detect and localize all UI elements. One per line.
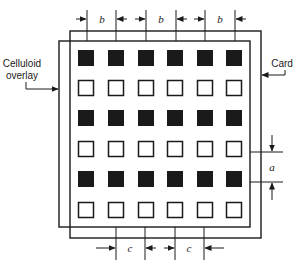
celluloid-overlay-leader-arrow: [26, 82, 58, 89]
dimension-c-bottom: [96, 227, 224, 260]
dimension-a-label: a: [269, 161, 275, 173]
dimension-c-label-2: c: [187, 242, 192, 254]
card-leader-arrow: [262, 70, 285, 75]
celluloid-overlay-diagram: b b b c c a Celluloid overlay Card: [0, 0, 304, 267]
grid-row-5: [78, 171, 242, 187]
grid-row-4: [79, 142, 242, 157]
dimension-b-label-2: b: [158, 13, 164, 25]
square-grid: [78, 50, 242, 218]
grid-row-1: [78, 50, 242, 66]
celluloid-overlay-label-line2: overlay: [6, 70, 38, 81]
dimension-b-label-1: b: [99, 13, 105, 25]
dimension-b-label-3: b: [217, 13, 223, 25]
grid-row-6: [79, 203, 242, 218]
dimension-a-right: [250, 135, 283, 200]
card-label: Card: [271, 58, 293, 69]
grid-row-2: [79, 81, 242, 96]
celluloid-overlay-outline: [59, 41, 250, 227]
grid-row-3: [78, 110, 242, 126]
dimension-c-label-1: c: [128, 242, 133, 254]
celluloid-overlay-label-line1: Celluloid: [3, 58, 41, 69]
